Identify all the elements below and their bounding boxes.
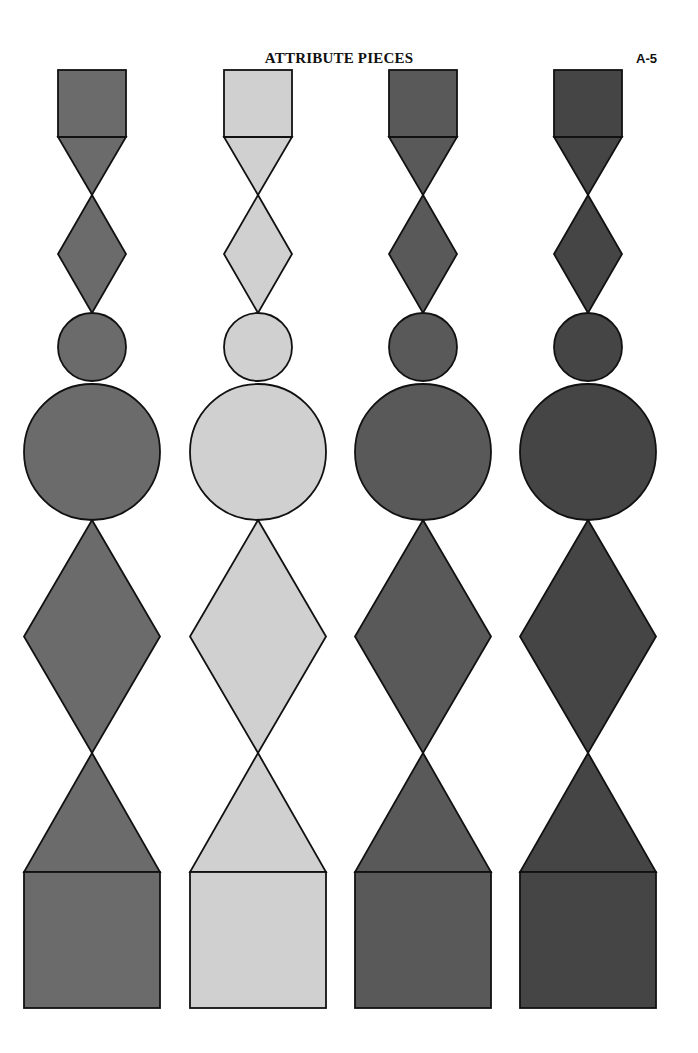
- small-diamond-piece: [58, 195, 126, 313]
- small-circle-piece: [58, 313, 126, 381]
- big-diamond-piece: [190, 520, 326, 753]
- piece-column-medium-gray: [24, 70, 160, 1008]
- big-circle-piece: [355, 384, 491, 520]
- small-circle-piece: [554, 313, 622, 381]
- small-diamond-piece: [224, 195, 292, 313]
- big-circle-piece: [190, 384, 326, 520]
- attribute-pieces-figure: [0, 0, 698, 1053]
- piece-column-darkest-gray: [520, 70, 656, 1008]
- small-triangle-piece: [389, 137, 457, 195]
- big-triangle-piece: [520, 753, 656, 872]
- big-diamond-piece: [520, 520, 656, 753]
- small-square-piece: [554, 70, 622, 137]
- small-square-piece: [224, 70, 292, 137]
- big-square-piece: [24, 872, 160, 1008]
- small-triangle-piece: [58, 137, 126, 195]
- big-triangle-piece: [190, 753, 326, 872]
- small-square-piece: [58, 70, 126, 137]
- small-triangle-piece: [554, 137, 622, 195]
- big-circle-piece: [24, 384, 160, 520]
- big-square-piece: [355, 872, 491, 1008]
- small-diamond-piece: [554, 195, 622, 313]
- small-triangle-piece: [224, 137, 292, 195]
- big-diamond-piece: [24, 520, 160, 753]
- big-square-piece: [190, 872, 326, 1008]
- small-circle-piece: [224, 313, 292, 381]
- small-diamond-piece: [389, 195, 457, 313]
- big-diamond-piece: [355, 520, 491, 753]
- piece-column-light-gray: [190, 70, 326, 1008]
- big-circle-piece: [520, 384, 656, 520]
- big-triangle-piece: [355, 753, 491, 872]
- big-triangle-piece: [24, 753, 160, 872]
- small-square-piece: [389, 70, 457, 137]
- small-circle-piece: [389, 313, 457, 381]
- piece-column-dark-gray: [355, 70, 491, 1008]
- big-square-piece: [520, 872, 656, 1008]
